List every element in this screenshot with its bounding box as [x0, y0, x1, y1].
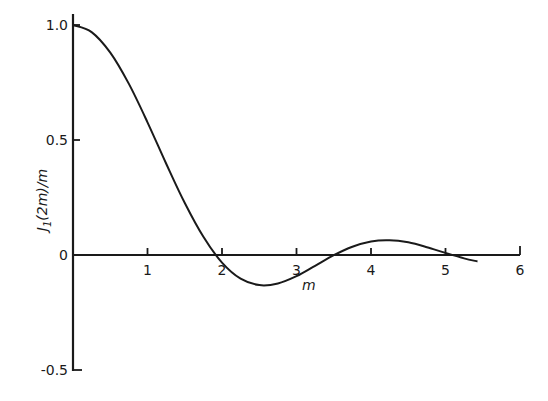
axes [73, 14, 520, 371]
y-axis-label-rest: (2m)/m [34, 169, 50, 221]
y-axis-label-j: J [34, 227, 50, 234]
x-ticks: 123456 [143, 248, 525, 278]
x-tick-label: 1 [143, 262, 152, 278]
x-tick-label: 4 [367, 262, 376, 278]
x-tick-label: 6 [516, 262, 525, 278]
y-tick-label: 0 [59, 247, 68, 263]
y-axis-label: J1(2m)/m [34, 169, 53, 234]
bessel-curve [73, 25, 478, 285]
y-tick-label: 1.0 [46, 17, 68, 33]
bessel-chart: 123456 1.00.50-0.5 m J1(2m)/m [0, 0, 548, 401]
x-axis-label: m [302, 277, 316, 293]
y-tick-label: -0.5 [41, 362, 68, 378]
y-tick-label: 0.5 [46, 132, 68, 148]
x-tick-label: 5 [441, 262, 450, 278]
x-tick-label: 2 [218, 262, 227, 278]
